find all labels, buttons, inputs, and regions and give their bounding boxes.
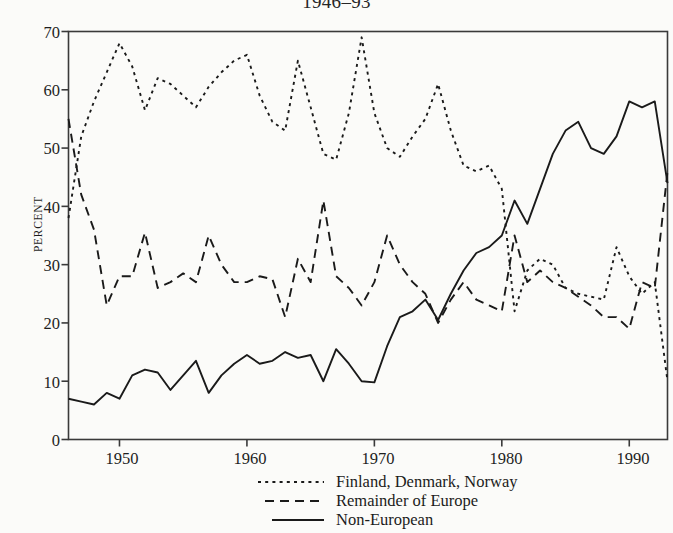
series-line-non-european [69,101,668,404]
plot-area [0,0,673,533]
legend-swatch-dotted-icon [255,475,327,489]
legend-swatch-dashed-icon [255,494,327,508]
series-line-remainder-of-europe [69,119,668,329]
series-line-finland-denmark-norway [69,37,668,381]
legend-label-2: Non-European [327,510,433,530]
data-series-layer [69,37,668,404]
chart-page: 1946–93 PERCENT 70 60 50 40 30 20 10 0 1… [0,0,673,533]
legend-item-remainder-of-europe[interactable]: Remainder of Europe [255,491,585,510]
y-axis-ticks [62,32,69,440]
legend-label-1: Remainder of Europe [327,491,478,511]
x-axis-ticks [119,440,629,447]
plot-frame [69,32,668,440]
legend-item-finland-denmark-norway[interactable]: Finland, Denmark, Norway [255,472,585,491]
legend-label-0: Finland, Denmark, Norway [327,472,517,492]
legend-swatch-solid-icon [255,513,327,527]
legend-item-non-european[interactable]: Non-European [255,510,585,529]
legend: Finland, Denmark, Norway Remainder of Eu… [255,472,585,529]
